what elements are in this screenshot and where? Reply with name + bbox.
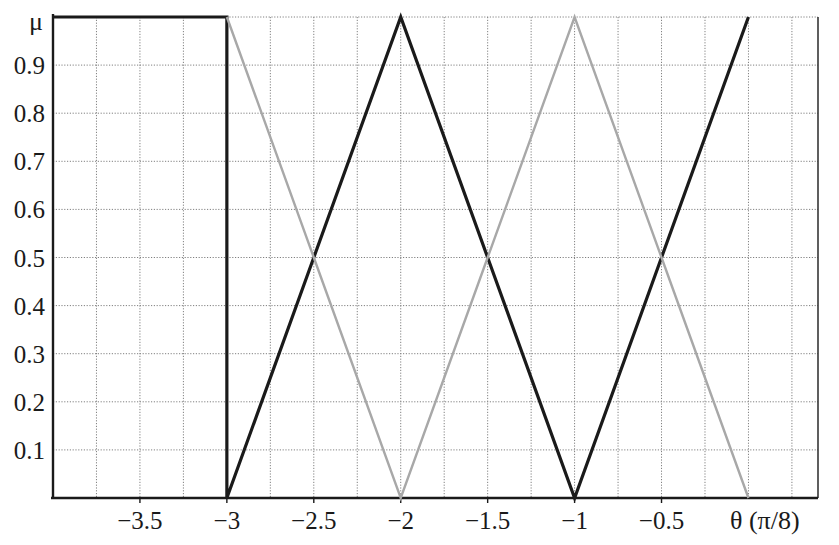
y-tick-label: 0.8 (14, 100, 45, 127)
x-tick-label: −1.5 (465, 507, 510, 534)
y-tick-label: 0.9 (14, 52, 45, 79)
x-tick-label: −3 (214, 507, 241, 534)
plot-background (0, 0, 839, 545)
x-tick-label: −0.5 (639, 507, 684, 534)
membership-function-plot: 0.10.20.30.40.50.60.70.80.9−3.5−3−2.5−2−… (0, 0, 839, 545)
x-tick-label: −1 (561, 507, 588, 534)
y-tick-label: 0.5 (14, 245, 45, 272)
y-tick-label: 0.7 (14, 148, 45, 175)
y-tick-label: 0.4 (14, 293, 46, 320)
x-tick-label: −2.5 (291, 507, 336, 534)
x-axis-label: θ (π/8) (730, 506, 800, 535)
y-tick-label: 0.6 (14, 196, 45, 223)
x-tick-label: −3.5 (117, 507, 162, 534)
y-tick-label: 0.1 (14, 437, 45, 464)
x-tick-label: −2 (387, 507, 414, 534)
chart-canvas: 0.10.20.30.40.50.60.70.80.9−3.5−3−2.5−2−… (0, 0, 839, 545)
y-tick-label: 0.3 (14, 341, 45, 368)
y-axis-label: μ (29, 7, 43, 36)
y-tick-label: 0.2 (14, 389, 45, 416)
